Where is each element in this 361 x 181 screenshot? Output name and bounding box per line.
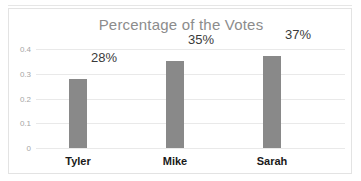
y-axis-tick-label: 0.2 <box>20 94 31 103</box>
bar-value-label-mike: 35% <box>188 33 214 48</box>
x-axis-category-label-mike: Mike <box>144 155 206 167</box>
y-axis-tick-label: 0 <box>27 144 31 153</box>
chart-container: Percentage of the Votes 0.4 0.3 0.2 0.1 … <box>8 8 352 174</box>
bar-value-label-sarah: 37% <box>285 28 311 43</box>
bar-sarah[interactable] <box>263 56 281 148</box>
x-axis-category-label-tyler: Tyler <box>47 155 109 167</box>
y-axis-tick-label: 0.1 <box>20 119 31 128</box>
bar-tyler[interactable] <box>69 79 87 148</box>
bar-series: 28% Tyler 35% Mike 37% Sarah <box>36 49 345 148</box>
x-axis-category-label-sarah: Sarah <box>241 155 303 167</box>
scan-artifact-strip <box>0 0 361 8</box>
bar-value-label-tyler: 28% <box>91 50 117 65</box>
plot-area: 0.4 0.3 0.2 0.1 0 28% Tyler <box>36 49 345 148</box>
bar-mike[interactable] <box>166 61 184 148</box>
chart-screenshot: Percentage of the Votes 0.4 0.3 0.2 0.1 … <box>0 0 361 181</box>
y-axis-tick-label: 0.3 <box>20 69 31 78</box>
y-axis-tick-label: 0.4 <box>20 45 31 54</box>
gridline-0-baseline: 0 <box>36 148 345 149</box>
